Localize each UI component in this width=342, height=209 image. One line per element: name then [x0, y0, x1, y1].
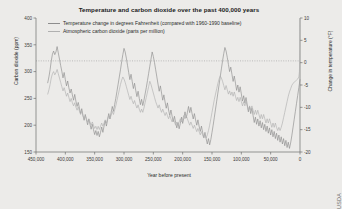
x-axis-tick-label: 0: [299, 157, 302, 162]
y-axis-left-title: Carbon dioxide (ppm): [13, 19, 19, 103]
series-line-carbon-dioxide: [48, 19, 300, 138]
y-axis-right-tick-label: 5: [304, 38, 307, 43]
y-axis-right-tick-label: 10: [304, 16, 310, 21]
x-axis-tick-label: 350,000: [86, 157, 103, 162]
y-axis-left-tick-label: 150: [24, 150, 32, 155]
x-axis-title: Year before present: [0, 172, 338, 178]
x-axis-tick-label: 150,000: [204, 157, 221, 162]
x-axis-tick-label: 400,000: [57, 157, 74, 162]
x-axis-tick-label: 450,000: [28, 157, 45, 162]
series-line-temperature: [48, 47, 300, 149]
y-axis-left-tick-label: 400: [24, 16, 32, 21]
y-axis-right-tick-label: -5: [304, 83, 309, 88]
y-axis-right-tick-label: -10: [304, 105, 311, 110]
x-axis-tick-label: 300,000: [116, 157, 133, 162]
y-axis-left-tick-label: 200: [24, 123, 32, 128]
x-axis-tick-label: 200,000: [174, 157, 191, 162]
y-axis-left-tick-label: 300: [24, 69, 32, 74]
x-axis-tick-label: 250,000: [145, 157, 162, 162]
source-credit: USDA: [336, 175, 342, 209]
y-axis-right-tick-label: -20: [304, 150, 311, 155]
y-axis-left-tick-label: 350: [24, 43, 32, 48]
x-axis-tick-label: 50,000: [264, 157, 278, 162]
y-axis-right-title: Change in temperature (°F): [327, 19, 333, 103]
x-axis-tick-label: 100,000: [233, 157, 250, 162]
y-axis-left-tick-label: 250: [24, 96, 32, 101]
y-axis-right-tick-label: 0: [304, 60, 307, 65]
y-axis-right-tick-label: -15: [304, 127, 311, 132]
